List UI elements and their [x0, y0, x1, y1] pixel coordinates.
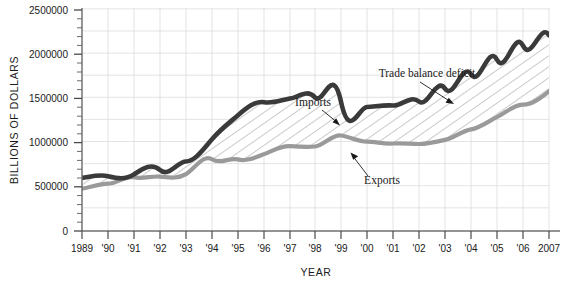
y-axis-title: BILLIONS OF DOLLARS — [8, 56, 20, 184]
y-tick-label-0: 0 — [62, 226, 68, 237]
y-tick-label-500000: 500000 — [35, 181, 69, 192]
y-axis-major-ticks — [74, 10, 82, 231]
x-tick-label-2000: '00 — [360, 243, 373, 254]
x-tick-label-1991: '91 — [127, 243, 140, 254]
x-tick-label-2004: '04 — [464, 243, 477, 254]
x-tick-label-2005: '05 — [490, 243, 503, 254]
x-tick-label-2002: '02 — [412, 243, 425, 254]
x-tick-label-1998: '98 — [308, 243, 321, 254]
x-tick-label-2006: '06 — [516, 243, 529, 254]
y-tick-label-1500000: 1500000 — [29, 93, 68, 104]
trade-balance-chart: 0 500000 1000000 1500000 2000000 2500000… — [0, 0, 566, 284]
x-tick-label-1992: '92 — [153, 243, 166, 254]
x-tick-label-2003: '03 — [438, 243, 451, 254]
x-tick-label-1999: '99 — [334, 243, 347, 254]
y-tick-label-1000000: 1000000 — [29, 137, 68, 148]
x-tick-label-1989: 1989 — [71, 243, 94, 254]
x-tick-label-1996: '96 — [257, 243, 270, 254]
deficit-annotation-label: Trade balance deficit — [379, 67, 476, 79]
x-tick-label-1995: '95 — [231, 243, 244, 254]
exports-annotation-label: Exports — [364, 174, 400, 187]
x-axis-title: YEAR — [301, 266, 332, 278]
x-tick-label-1997: '97 — [283, 243, 296, 254]
x-tick-label-1994: '94 — [205, 243, 218, 254]
imports-annotation-label: Imports — [295, 96, 331, 109]
x-tick-label-2001: '01 — [386, 243, 399, 254]
x-axis-ticks — [82, 231, 549, 239]
x-tick-label-1993: '93 — [179, 243, 192, 254]
chart-svg: 0 500000 1000000 1500000 2000000 2500000… — [0, 0, 566, 284]
y-tick-label-2000000: 2000000 — [29, 49, 68, 60]
y-tick-label-2500000: 2500000 — [29, 5, 68, 16]
y-axis-minor-ticks — [77, 19, 82, 222]
x-tick-label-2007: 2007 — [538, 243, 561, 254]
x-tick-label-1990: '90 — [101, 243, 114, 254]
